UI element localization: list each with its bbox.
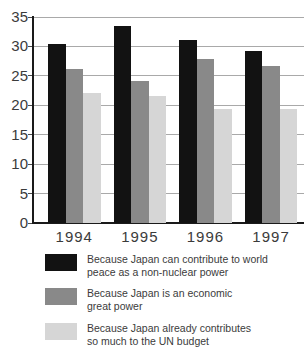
legend-swatch-black [45, 254, 77, 271]
legend-item-un-budget: Because Japan already contributes so muc… [45, 322, 251, 348]
y-axis-tick-label-35: 35 [0, 9, 28, 25]
legend-label: Because Japan can contribute to world pe… [87, 253, 268, 279]
legend-label: Because Japan is an economic great power [87, 287, 232, 313]
y-axis-tick-label-20: 20 [0, 97, 28, 113]
bar-1995-series1 [114, 26, 132, 223]
legend-item-economic-power: Because Japan is an economic great power [45, 287, 232, 313]
bar-chart: Because Japan can contribute to world pe… [0, 0, 308, 362]
bar-1994-series1 [48, 44, 66, 223]
y-axis-tick-label-0: 0 [0, 215, 28, 231]
bar-1997-series2 [262, 66, 280, 223]
y-axis-line [32, 16, 34, 223]
bar-1996-series3 [214, 109, 232, 223]
bar-1997-series3 [280, 109, 298, 223]
y-axis-tick-label-10: 10 [0, 156, 28, 172]
legend-label-line: Because Japan is an economic [87, 287, 232, 300]
bar-1997-series1 [245, 51, 263, 223]
legend-label-line: peace as a non-nuclear power [87, 266, 268, 279]
legend-item-non-nuclear-power: Because Japan can contribute to world pe… [45, 253, 268, 279]
y-axis-tick-label-15: 15 [0, 127, 28, 143]
legend-label-line: great power [87, 300, 232, 313]
legend-swatch-dark-gray [45, 288, 77, 305]
y-axis-tick-label-5: 5 [0, 186, 28, 202]
bar-1996-series2 [197, 59, 215, 223]
legend-label-line: Because Japan already contributes [87, 322, 251, 335]
gridline-35 [33, 17, 304, 18]
legend-label-line: so much to the UN budget [87, 335, 251, 348]
legend-label: Because Japan already contributes so muc… [87, 322, 251, 348]
x-axis-label-1997: 1997 [239, 228, 303, 245]
y-axis-tick-label-30: 30 [0, 38, 28, 54]
bar-1994-series3 [83, 93, 101, 223]
bar-1996-series1 [179, 40, 197, 223]
x-axis-label-1995: 1995 [108, 228, 172, 245]
x-axis-label-1996: 1996 [173, 228, 237, 245]
bar-1994-series2 [66, 69, 84, 223]
legend-label-line: Because Japan can contribute to world [87, 253, 268, 266]
bar-1995-series3 [149, 96, 167, 223]
bar-1995-series2 [131, 81, 149, 223]
x-axis-label-1994: 1994 [42, 228, 106, 245]
y-axis-tick-label-25: 25 [0, 68, 28, 84]
legend-swatch-light-gray [45, 323, 77, 340]
gridline-30 [33, 46, 304, 47]
